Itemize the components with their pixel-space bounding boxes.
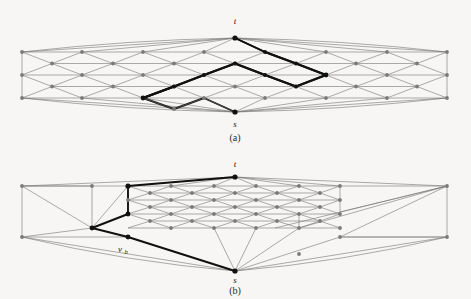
panel-b: t s v b (b)	[20, 159, 449, 297]
node-t	[232, 174, 237, 179]
node-t	[232, 35, 237, 40]
svg-text:v: v	[118, 244, 122, 254]
panel-a-label-s: s	[233, 119, 237, 129]
panel-b-label-s: s	[233, 275, 237, 285]
panel-b-edges-light	[22, 177, 447, 271]
figure-svg: t s (a)	[0, 0, 471, 299]
panel-b-nodes-highlight	[90, 174, 238, 273]
node-s	[232, 268, 237, 273]
panel-b-nodes	[20, 184, 449, 256]
panel-a: t s (a)	[20, 16, 449, 144]
node-s	[232, 109, 237, 114]
panel-a-edges-light	[22, 38, 447, 112]
panel-b-label-t: t	[234, 159, 237, 169]
panel-a-caption: (a)	[229, 132, 240, 144]
node-vb	[126, 235, 131, 240]
panel-b-caption: (b)	[229, 285, 241, 297]
panel-b-highlight-path	[92, 177, 235, 271]
panel-a-nodes	[20, 50, 449, 111]
figure-page: t s (a)	[0, 0, 471, 299]
panel-a-label-t: t	[234, 16, 237, 26]
